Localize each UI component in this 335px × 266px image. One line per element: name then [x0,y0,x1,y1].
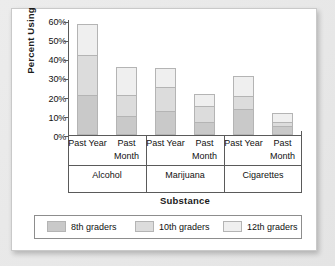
bar-segment-g12 [77,24,98,55]
category-bottom-line [68,192,302,193]
legend-item-10th-graders[interactable]: 10th graders [135,221,210,232]
bar-segment-g12 [155,68,176,87]
bar-segment-g8 [77,95,98,135]
bar-marijuana-past-year [155,68,176,135]
y-axis-tick-labels: 60% 50% 40% 30% 20% 10% 0% [34,22,66,134]
group-label-alcohol: Alcohol [68,170,146,180]
bar-segment-g8 [116,116,137,135]
category-label-block: Past Year Past Month Past Year Past Mont… [68,135,302,193]
bar-segment-g8 [233,109,254,135]
y-tick-label-20: 20% [49,94,66,104]
legend-label-12th-graders: 12th graders [247,222,298,232]
bar-segment-g10 [194,106,215,121]
y-tick-label-10: 10% [49,113,66,123]
period-label-marijuana-past-month: Past Month [185,137,224,162]
legend-swatch-10th-graders [135,221,154,232]
bar-segment-g10 [116,95,137,116]
bar-cigarettes-past-month [272,113,293,135]
period-label-alcohol-past-year: Past Year [68,137,107,150]
x-axis-title: Substance [68,195,302,206]
period-label-cigarettes-past-year: Past Year [224,137,263,150]
bar-segment-g12 [272,113,293,122]
legend-swatch-12th-graders [223,221,242,232]
group-label-cigarettes: Cigarettes [224,170,302,180]
chart-plot-area: Percent Using 60% 50% 40% 30% 20% 10% 0% [12,9,318,252]
legend-item-8th-graders[interactable]: 8th graders [47,221,117,232]
bar-segment-g12 [194,94,215,106]
bar-segment-g8 [194,122,215,135]
bar-segment-g10 [77,55,98,95]
chart-legend: 8th graders 10th graders 12th graders [34,215,302,239]
bar-segment-g12 [233,76,254,96]
bar-series-layer [68,20,301,135]
legend-swatch-8th-graders [47,221,66,232]
y-tick-label-0: 0% [53,132,66,142]
period-label-alcohol-past-month: Past Month [107,137,146,162]
legend-label-10th-graders: 10th graders [159,222,210,232]
period-label-marijuana-past-year: Past Year [146,137,185,150]
bar-segment-g10 [233,96,254,109]
group-label-marijuana: Marijuana [146,170,224,180]
bar-marijuana-past-month [194,94,215,135]
category-separator-line [68,165,302,166]
bar-alcohol-past-month [116,67,137,135]
period-label-cigarettes-past-month: Past Month [263,137,302,162]
bar-segment-g8 [155,111,176,135]
legend-item-12th-graders[interactable]: 12th graders [223,221,298,232]
bar-alcohol-past-year [77,24,98,135]
bar-segment-g10 [155,87,176,111]
bar-segment-g12 [116,67,137,95]
legend-label-8th-graders: 8th graders [71,222,117,232]
bar-cigarettes-past-year [233,76,254,135]
bar-segment-g8 [272,126,293,135]
chart-card: Percent Using 60% 50% 40% 30% 20% 10% 0% [11,8,317,251]
